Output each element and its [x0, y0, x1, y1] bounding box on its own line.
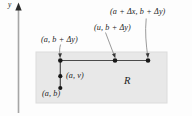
- label-a-v: (a, v): [66, 72, 84, 80]
- figure-canvas: [0, 0, 192, 116]
- label-a-plus-dx-b-plus-dy: (a + Δx, b + Δy): [110, 8, 165, 16]
- dot-a-v: [58, 74, 62, 78]
- math-figure: y (a + Δx, b + Δy) (u, b + Δy) (a, b + Δ…: [0, 0, 192, 116]
- dot-a-plus-dx-b-plus-dy: [146, 58, 151, 63]
- label-a-b: (a, b): [42, 90, 60, 98]
- y-axis-label: y: [8, 1, 11, 8]
- dot-a-b-plus-dy: [58, 58, 63, 63]
- leader-line-top-right: [146, 19, 148, 56]
- label-a-b-plus-dy: (a, b + Δy): [41, 36, 78, 44]
- region-label: R: [124, 76, 131, 87]
- label-u-b-plus-dy: (u, b + Δy): [94, 24, 131, 32]
- dot-u-b-plus-dy: [113, 58, 118, 63]
- y-axis-arrowhead: [15, 3, 21, 11]
